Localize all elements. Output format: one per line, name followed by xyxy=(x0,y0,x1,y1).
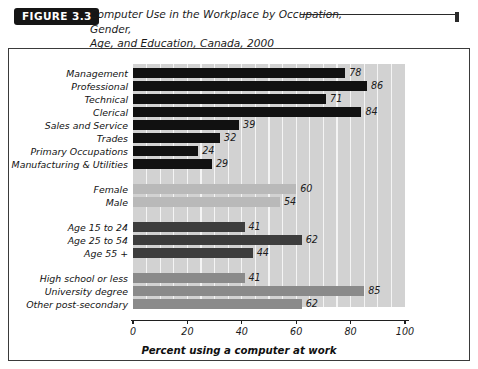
category-label: Age 55 + xyxy=(0,249,128,259)
category-label: Clerical xyxy=(0,108,128,118)
bar-row: 41 xyxy=(133,222,405,233)
category-label: Management xyxy=(0,69,128,79)
category-label: Technical xyxy=(0,95,128,105)
bar xyxy=(133,222,245,232)
x-axis-tick-label: 60 xyxy=(276,326,316,337)
plot-area: 78867184393224296054416244418562 xyxy=(133,64,405,314)
bar-row: 54 xyxy=(133,197,405,208)
x-axis-tick xyxy=(350,320,351,324)
category-label: Trades xyxy=(0,134,128,144)
category-label: Sales and Service xyxy=(0,121,128,131)
bar xyxy=(133,81,367,91)
x-axis-title: Percent using a computer at work xyxy=(0,345,478,356)
category-label: High school or less xyxy=(0,274,128,284)
category-label: Age 25 to 54 xyxy=(0,236,128,246)
bar xyxy=(133,133,220,143)
bar xyxy=(133,184,296,194)
bar xyxy=(133,235,302,245)
bar-value-label: 24 xyxy=(202,146,214,156)
bar-value-label: 62 xyxy=(306,235,318,245)
figure-container: FIGURE 3.3 Computer Use in the Workplace… xyxy=(0,0,478,369)
bar-row: 60 xyxy=(133,184,405,195)
header-rule xyxy=(300,14,458,15)
bar xyxy=(133,299,302,309)
header-rule-end-cap-icon xyxy=(455,12,459,22)
figure-number-badge: FIGURE 3.3 xyxy=(14,8,99,25)
bar-value-label: 32 xyxy=(224,133,236,143)
x-axis-line xyxy=(131,320,409,321)
bar-row: 86 xyxy=(133,81,405,92)
category-label: Age 15 to 24 xyxy=(0,223,128,233)
x-axis-tick-label: 40 xyxy=(222,326,262,337)
category-label: University degree xyxy=(0,287,128,297)
x-axis-tick-label: 0 xyxy=(113,326,153,337)
bar-row: 24 xyxy=(133,146,405,157)
category-label: Primary Occupations xyxy=(0,147,128,157)
bar xyxy=(133,248,253,258)
bar xyxy=(133,197,280,207)
bar xyxy=(133,94,326,104)
x-axis-tick xyxy=(187,320,188,324)
bar-row: 71 xyxy=(133,94,405,105)
bar xyxy=(133,159,212,169)
bar-value-label: 39 xyxy=(243,120,255,130)
bar-row: 84 xyxy=(133,107,405,118)
bar xyxy=(133,286,364,296)
bar-value-label: 78 xyxy=(349,68,361,78)
bar-value-label: 54 xyxy=(284,197,296,207)
category-axis-labels: ManagementProfessionalTechnicalClericalS… xyxy=(0,64,128,314)
figure-title-line: Computer Use in the Workplace by Occupat… xyxy=(90,8,342,35)
x-axis-tick xyxy=(404,320,405,324)
bar-row: 44 xyxy=(133,248,405,259)
bar-value-label: 85 xyxy=(368,286,380,296)
bar-row: 62 xyxy=(133,299,405,310)
bar-row: 85 xyxy=(133,286,405,297)
bar-row: 62 xyxy=(133,235,405,246)
bar-value-label: 60 xyxy=(300,184,312,194)
bar-value-label: 41 xyxy=(249,222,261,232)
x-axis-tick xyxy=(241,320,242,324)
bar-row: 41 xyxy=(133,273,405,284)
figure-header: FIGURE 3.3 Computer Use in the Workplace… xyxy=(0,0,478,46)
bar-value-label: 86 xyxy=(371,81,383,91)
x-axis-tick-label: 80 xyxy=(331,326,371,337)
bar-value-label: 44 xyxy=(257,248,269,258)
bar xyxy=(133,273,245,283)
bar-value-label: 84 xyxy=(365,107,377,117)
x-axis-tick-label: 100 xyxy=(385,326,425,337)
category-label: Other post-secondary xyxy=(0,300,128,310)
bar-value-label: 41 xyxy=(249,273,261,283)
bar xyxy=(133,120,239,130)
bar-value-label: 71 xyxy=(330,94,342,104)
bar-row: 32 xyxy=(133,133,405,144)
bar-value-label: 62 xyxy=(306,299,318,309)
bar-value-label: 29 xyxy=(216,159,228,169)
bar xyxy=(133,107,361,117)
x-axis-tick xyxy=(296,320,297,324)
category-label: Female xyxy=(0,185,128,195)
x-axis-tick-label: 20 xyxy=(167,326,207,337)
bar xyxy=(133,68,345,78)
bar-row: 78 xyxy=(133,68,405,79)
category-label: Professional xyxy=(0,82,128,92)
category-label: Male xyxy=(0,198,128,208)
bar-row: 39 xyxy=(133,120,405,131)
category-label: Manufacturing & Utilities xyxy=(0,160,128,170)
bar xyxy=(133,146,198,156)
x-axis-tick xyxy=(132,320,133,324)
bar-row: 29 xyxy=(133,159,405,170)
